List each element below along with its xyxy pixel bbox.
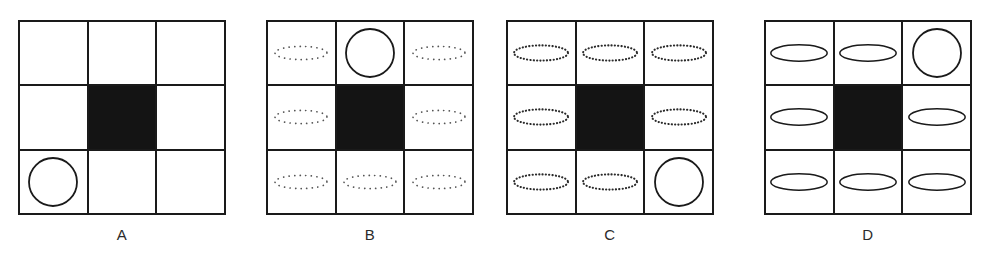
ellipse-shape-icon bbox=[769, 103, 829, 131]
ellipse-dotted-shape-icon bbox=[511, 103, 571, 131]
grid-cell[interactable] bbox=[903, 86, 972, 150]
grid-cell[interactable] bbox=[268, 86, 337, 150]
ellipse-shape-icon bbox=[907, 168, 967, 196]
ellipse-dotted-shape-icon bbox=[271, 40, 331, 66]
panel-label-b: B bbox=[266, 226, 474, 244]
grid-c bbox=[506, 20, 714, 215]
grid-cell[interactable] bbox=[20, 22, 89, 86]
ellipse-dotted-shape-icon bbox=[409, 169, 469, 195]
ellipse-dotted-shape-icon bbox=[649, 39, 709, 67]
grid-cell[interactable] bbox=[645, 151, 714, 215]
grid-cell[interactable] bbox=[268, 22, 337, 86]
ellipse-shape-icon bbox=[769, 168, 829, 196]
grid-cell[interactable] bbox=[337, 151, 406, 215]
grid-cell[interactable] bbox=[337, 22, 406, 86]
grid-cell[interactable] bbox=[89, 22, 158, 86]
grid-cell[interactable] bbox=[835, 151, 904, 215]
grid-cell[interactable] bbox=[157, 22, 226, 86]
circle-shape-icon bbox=[344, 27, 396, 79]
grid-cell[interactable] bbox=[89, 86, 158, 150]
grid-cell[interactable] bbox=[903, 22, 972, 86]
ellipse-dotted-shape-icon bbox=[271, 104, 331, 130]
grid-cell[interactable] bbox=[766, 86, 835, 150]
grid-cell[interactable] bbox=[577, 22, 646, 86]
grid-cell[interactable] bbox=[577, 86, 646, 150]
grid-cell[interactable] bbox=[903, 151, 972, 215]
grid-cell[interactable] bbox=[508, 151, 577, 215]
ellipse-dotted-shape-icon bbox=[580, 39, 640, 67]
ellipse-shape-icon bbox=[838, 168, 898, 196]
ellipse-shape-icon bbox=[907, 103, 967, 131]
ellipse-dotted-shape-icon bbox=[340, 169, 400, 195]
grid-cell[interactable] bbox=[766, 22, 835, 86]
grid-cell[interactable] bbox=[835, 86, 904, 150]
grid-cell[interactable] bbox=[20, 151, 89, 215]
grid-cell[interactable] bbox=[766, 151, 835, 215]
ellipse-shape-icon bbox=[838, 39, 898, 67]
grid-cell[interactable] bbox=[337, 86, 406, 150]
ellipse-dotted-shape-icon bbox=[511, 39, 571, 67]
circle-shape-icon bbox=[653, 156, 705, 208]
panel-label-c: C bbox=[506, 226, 714, 244]
grid-cell[interactable] bbox=[157, 86, 226, 150]
panel-a: A bbox=[18, 0, 226, 262]
ellipse-dotted-shape-icon bbox=[511, 168, 571, 196]
grid-cell[interactable] bbox=[835, 22, 904, 86]
grid-a bbox=[18, 20, 226, 215]
panel-label-a: A bbox=[18, 226, 226, 244]
grid-cell[interactable] bbox=[508, 22, 577, 86]
panel-b: B bbox=[266, 0, 474, 262]
grid-cell[interactable] bbox=[405, 86, 474, 150]
grid-d bbox=[764, 20, 972, 215]
ellipse-dotted-shape-icon bbox=[580, 168, 640, 196]
grid-wrapper-b bbox=[266, 20, 474, 215]
panel-c: C bbox=[506, 0, 714, 262]
grid-cell[interactable] bbox=[268, 151, 337, 215]
grid-cell[interactable] bbox=[405, 151, 474, 215]
ellipse-dotted-shape-icon bbox=[409, 104, 469, 130]
panel-d: D bbox=[764, 0, 972, 262]
grid-cell[interactable] bbox=[577, 151, 646, 215]
ellipse-dotted-shape-icon bbox=[649, 103, 709, 131]
ellipse-dotted-shape-icon bbox=[271, 169, 331, 195]
grid-cell[interactable] bbox=[508, 86, 577, 150]
circle-shape-icon bbox=[911, 27, 963, 79]
figure-root: ABCD bbox=[0, 0, 990, 262]
grid-cell[interactable] bbox=[157, 151, 226, 215]
ellipse-dotted-shape-icon bbox=[409, 40, 469, 66]
grid-b bbox=[266, 20, 474, 215]
grid-wrapper-c bbox=[506, 20, 714, 215]
grid-cell[interactable] bbox=[20, 86, 89, 150]
grid-cell[interactable] bbox=[89, 151, 158, 215]
grid-cell[interactable] bbox=[405, 22, 474, 86]
panel-label-d: D bbox=[764, 226, 972, 244]
grid-cell[interactable] bbox=[645, 22, 714, 86]
grid-wrapper-a bbox=[18, 20, 226, 215]
ellipse-shape-icon bbox=[769, 39, 829, 67]
grid-wrapper-d bbox=[764, 20, 972, 215]
circle-shape-icon bbox=[27, 156, 79, 208]
grid-cell[interactable] bbox=[645, 86, 714, 150]
